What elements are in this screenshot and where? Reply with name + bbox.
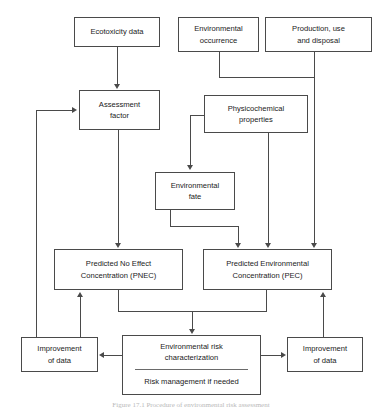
node-risk-characterization-line2: characterization xyxy=(125,352,258,363)
node-environmental-occurrence-line2: occurrence xyxy=(200,35,238,46)
node-improvement-of-data-left[interactable]: Improvement of data xyxy=(21,337,98,372)
arrowhead-improvement-left xyxy=(99,352,104,358)
node-improvement-of-data-right-line2: of data xyxy=(313,355,336,366)
edge-physchem-to-fate xyxy=(190,115,191,166)
node-physicochemical-properties-line2: properties xyxy=(239,114,273,125)
node-production-use-disposal[interactable]: Production, use and disposal xyxy=(265,17,372,52)
node-pnec-line2: Concentration (PNEC) xyxy=(81,270,157,281)
edge-improvement-left-feedback-up xyxy=(36,110,37,337)
arrowhead-pec-middle xyxy=(265,243,271,248)
edge-production-to-pec xyxy=(314,52,315,244)
edge-assessment-to-pnec xyxy=(118,130,119,244)
node-environmental-occurrence-line1: Environmental xyxy=(194,23,243,34)
arrowhead-improvement-right xyxy=(281,352,286,358)
node-ecotoxicity-data-line1: Ecotoxicity data xyxy=(90,26,143,37)
edge-merge-to-risk xyxy=(192,311,193,330)
edge-fate-drop xyxy=(170,210,171,226)
edge-improvement-left-feedback-right xyxy=(36,110,73,111)
node-assessment-factor[interactable]: Assessment factor xyxy=(79,90,160,130)
arrowhead-assessment-left xyxy=(72,107,77,113)
edge-fate-right xyxy=(170,226,238,227)
node-improvement-of-data-right-line1: Improvement xyxy=(303,343,347,354)
risk-management-section: Risk management if needed xyxy=(123,370,260,394)
node-environmental-fate[interactable]: Environmental fate xyxy=(155,172,235,210)
node-environmental-fate-line2: fate xyxy=(189,191,202,202)
risk-characterization-heading: Environmental risk characterization xyxy=(123,336,260,368)
arrowhead-pec-right xyxy=(311,243,317,248)
node-risk-characterization[interactable]: Environmental risk characterization Risk… xyxy=(122,335,261,395)
arrowhead-fate-top xyxy=(187,165,193,170)
edge-improvement-left-to-pnec xyxy=(80,297,81,337)
edge-pnec-drop xyxy=(118,290,119,311)
arrowhead-pnec-top xyxy=(115,243,121,248)
node-improvement-of-data-left-line1: Improvement xyxy=(37,343,81,354)
arrowhead-pec-left xyxy=(235,243,241,248)
arrowhead-risk-top xyxy=(189,329,195,334)
arrowhead-assessment-top xyxy=(114,84,120,89)
arrowhead-pec-bottom xyxy=(320,292,326,297)
node-pnec-line1: Predicted No Effect xyxy=(86,258,151,269)
arrowhead-pnec-bottom xyxy=(77,292,83,297)
node-environmental-occurrence[interactable]: Environmental occurrence xyxy=(178,17,259,52)
figure-caption: Figure 17.1 Procedure of environmental r… xyxy=(0,401,382,409)
edge-improvement-right-to-pec xyxy=(323,297,324,337)
node-improvement-of-data-left-line2: of data xyxy=(48,355,71,366)
node-pec-line2: Concentration (PEC) xyxy=(232,270,302,281)
edge-ecotoxicity-to-assessment xyxy=(117,47,118,85)
edge-physchem-left xyxy=(190,115,205,116)
edge-fate-to-pec xyxy=(238,226,239,244)
node-physicochemical-properties[interactable]: Physicochemical properties xyxy=(204,95,308,133)
node-pec-line1: Predicted Environmental xyxy=(226,258,309,269)
node-production-use-disposal-line1: Production, use xyxy=(292,23,345,34)
node-pec[interactable]: Predicted Environmental Concentration (P… xyxy=(203,249,332,290)
edge-pec-drop xyxy=(266,290,267,311)
edge-occurrence-right xyxy=(219,77,315,78)
flowchart-figure: Ecotoxicity data Environmental occurrenc… xyxy=(0,0,382,415)
node-assessment-factor-line2: factor xyxy=(110,110,129,121)
node-environmental-fate-line1: Environmental xyxy=(171,180,220,191)
node-improvement-of-data-right[interactable]: Improvement of data xyxy=(287,337,363,372)
edge-physchem-to-pec xyxy=(268,133,269,244)
edge-risk-to-improvement-right xyxy=(261,355,282,356)
node-pnec[interactable]: Predicted No Effect Concentration (PNEC) xyxy=(54,249,183,290)
edge-risk-to-improvement-left xyxy=(104,355,122,356)
node-production-use-disposal-line2: and disposal xyxy=(297,35,340,46)
node-ecotoxicity-data[interactable]: Ecotoxicity data xyxy=(74,17,160,47)
node-assessment-factor-line1: Assessment xyxy=(99,99,140,110)
edge-occurrence-drop xyxy=(219,52,220,77)
node-risk-characterization-line3: Risk management if needed xyxy=(144,376,239,387)
node-risk-characterization-line1: Environmental risk xyxy=(125,341,258,352)
node-physicochemical-properties-line1: Physicochemical xyxy=(228,103,285,114)
